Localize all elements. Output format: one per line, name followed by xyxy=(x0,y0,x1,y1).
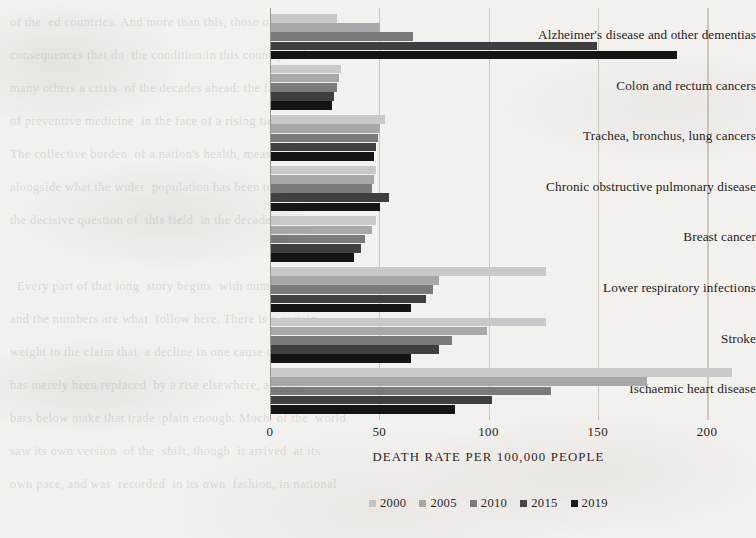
bar-2005 xyxy=(271,377,647,386)
x-tick-label: 200 xyxy=(697,424,717,440)
legend-label: 2000 xyxy=(380,496,406,511)
legend-swatch-icon xyxy=(520,500,527,507)
bar-2005 xyxy=(271,74,339,83)
legend-label: 2019 xyxy=(582,496,608,511)
bar-2015 xyxy=(271,42,597,51)
bar-2015 xyxy=(271,295,426,304)
bar-2010 xyxy=(271,134,378,143)
bar-2015 xyxy=(271,244,361,253)
legend-item[interactable]: 2005 xyxy=(419,496,456,511)
bar-2010 xyxy=(271,32,413,41)
legend-item[interactable]: 2000 xyxy=(369,496,406,511)
bar-2000 xyxy=(271,318,546,327)
bar-2000 xyxy=(271,14,337,23)
legend-swatch-icon xyxy=(571,500,578,507)
chart-legend: 20002005201020152019 xyxy=(270,496,707,511)
legend-swatch-icon xyxy=(470,500,477,507)
bar-2005 xyxy=(271,327,487,336)
legend-item[interactable]: 2010 xyxy=(470,496,507,511)
bar-group xyxy=(271,267,708,313)
bar-2010 xyxy=(271,83,337,92)
bar-group xyxy=(271,14,708,60)
bar-2000 xyxy=(271,166,376,175)
legend-label: 2005 xyxy=(430,496,456,511)
bar-2005 xyxy=(271,23,380,32)
bar-2019 xyxy=(271,405,455,414)
x-tick-label: 100 xyxy=(478,424,498,440)
bar-2000 xyxy=(271,267,546,276)
bar-2015 xyxy=(271,92,334,101)
bar-group xyxy=(271,216,708,262)
legend-swatch-icon xyxy=(369,500,376,507)
bar-2000 xyxy=(271,65,341,74)
bar-group xyxy=(271,368,708,414)
bar-2010 xyxy=(271,336,452,345)
bar-2019 xyxy=(271,101,332,110)
legend-label: 2015 xyxy=(531,496,557,511)
bar-group xyxy=(271,65,708,111)
bar-2019 xyxy=(271,304,411,313)
x-axis-title: DEATH RATE PER 100,000 PEOPLE xyxy=(270,450,707,465)
bar-2005 xyxy=(271,226,372,235)
bar-2000 xyxy=(271,115,385,124)
bar-2010 xyxy=(271,387,551,396)
bar-2010 xyxy=(271,184,372,193)
bar-2010 xyxy=(271,285,433,294)
bar-2000 xyxy=(271,368,732,377)
x-tick-label: 0 xyxy=(267,424,274,440)
bar-2019 xyxy=(271,253,354,262)
bar-2010 xyxy=(271,235,365,244)
bar-2019 xyxy=(271,152,374,161)
x-tick-label: 50 xyxy=(372,424,386,440)
bar-2005 xyxy=(271,276,439,285)
legend-item[interactable]: 2015 xyxy=(520,496,557,511)
bar-2019 xyxy=(271,354,411,363)
bar-2015 xyxy=(271,345,439,354)
legend-swatch-icon xyxy=(419,500,426,507)
bar-chart: Alzheimer's disease and other dementiasC… xyxy=(0,0,756,538)
bar-2019 xyxy=(271,51,677,60)
x-tick-label: 150 xyxy=(588,424,608,440)
bar-2005 xyxy=(271,175,374,184)
bar-group xyxy=(271,115,708,161)
bar-2000 xyxy=(271,216,376,225)
bar-2015 xyxy=(271,193,389,202)
bar-2019 xyxy=(271,203,380,212)
bar-2015 xyxy=(271,396,492,405)
legend-item[interactable]: 2019 xyxy=(571,496,608,511)
bar-group xyxy=(271,318,708,364)
bar-group xyxy=(271,166,708,212)
legend-label: 2010 xyxy=(481,496,507,511)
bar-2015 xyxy=(271,143,376,152)
bar-2005 xyxy=(271,124,380,133)
